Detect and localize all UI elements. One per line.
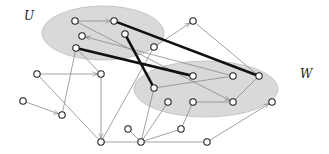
node-r <box>151 85 157 91</box>
edge-m-n <box>26 102 59 114</box>
node-n <box>59 112 65 118</box>
node-q <box>138 139 144 145</box>
node-o <box>98 139 104 145</box>
graph-diagram: U W <box>0 0 329 154</box>
edge-q-y <box>144 130 177 141</box>
node-v <box>230 99 236 105</box>
node-f <box>34 71 40 77</box>
node-c <box>79 33 85 39</box>
set-label-u: U <box>24 9 35 23</box>
edge-q-s <box>143 105 166 139</box>
node-t <box>190 99 196 105</box>
node-k <box>230 73 236 79</box>
node-h <box>151 44 157 50</box>
node-a <box>72 18 78 24</box>
edge-e-n <box>63 51 76 111</box>
node-x <box>269 99 275 105</box>
node-p <box>125 126 131 132</box>
node-d <box>122 31 128 37</box>
node-s <box>165 99 171 105</box>
node-e <box>73 45 79 51</box>
node-l <box>256 73 262 79</box>
set-label-w: W <box>300 67 314 81</box>
node-g <box>98 71 104 77</box>
edge-p-q <box>130 131 138 139</box>
node-j <box>190 73 196 79</box>
edge-f-o <box>39 76 98 139</box>
node-m <box>20 98 26 104</box>
node-b <box>111 18 117 24</box>
node-y <box>178 126 184 132</box>
node-z <box>204 139 210 145</box>
node-i <box>190 18 196 24</box>
